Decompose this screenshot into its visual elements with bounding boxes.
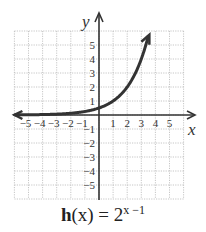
curve-path (14, 36, 148, 115)
y-axis-label: y (80, 12, 90, 31)
y-tick-label: 3 (90, 67, 96, 79)
y-tick-label: −5 (83, 179, 95, 191)
y-tick-label: −4 (83, 165, 95, 177)
x-tick-label: 1 (110, 117, 116, 129)
caption-function-name: h (61, 204, 72, 225)
x-axis-label: x (187, 120, 196, 139)
x-tick-label: −3 (48, 117, 60, 129)
caption-expression: (x) = 2 (71, 204, 123, 225)
y-tick-label: 4 (90, 53, 96, 65)
y-tick-label: 5 (90, 39, 96, 51)
x-tick-label: 3 (139, 117, 145, 129)
function-curve (14, 35, 149, 119)
x-tick-label: 5 (167, 117, 173, 129)
x-tick-label: 2 (124, 117, 130, 129)
y-tick-label: −3 (83, 151, 95, 163)
x-tick-label: −2 (62, 117, 74, 129)
x-tick-label: 4 (153, 117, 159, 129)
y-tick-label: −1 (83, 123, 95, 135)
y-tick-label: 2 (90, 81, 96, 93)
y-tick-label: 1 (90, 95, 96, 107)
function-caption: h(x) = 2x −1 (0, 203, 206, 226)
graph: −5−4−3−2−11234554321−1−2−3−4−5 x y (0, 0, 206, 200)
y-tick-label: −2 (83, 137, 95, 149)
caption-exponent: x −1 (123, 203, 145, 217)
x-tick-label: −4 (34, 117, 46, 129)
